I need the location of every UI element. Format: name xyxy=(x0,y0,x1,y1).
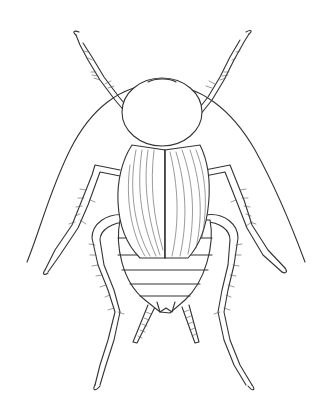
cockroach-drawing xyxy=(0,0,325,407)
left-cercus xyxy=(133,305,155,343)
middle-left-leg xyxy=(44,165,120,274)
hind-right-leg xyxy=(205,215,254,390)
wings xyxy=(118,145,209,258)
cockroach-illustration xyxy=(0,0,325,407)
pronotum xyxy=(122,78,202,146)
middle-right-leg xyxy=(205,165,286,273)
right-cercus xyxy=(182,305,199,343)
